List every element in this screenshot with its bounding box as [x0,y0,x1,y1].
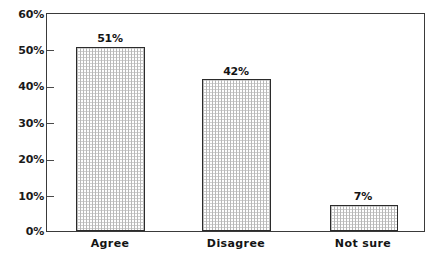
bar-disagree[interactable] [202,79,271,231]
y-axis-tick-50 [47,50,54,51]
category-label-not-sure: Not sure [335,238,391,250]
category-label-disagree: Disagree [207,238,265,250]
y-tick-label-0: 0% [2,226,44,237]
value-label-disagree: 42% [223,66,249,77]
y-axis-tick-40 [47,87,54,88]
value-label-agree: 51% [97,33,123,44]
y-axis-tick-20 [47,160,54,161]
y-tick-label-40: 40% [2,81,44,92]
y-axis-tick-30 [47,123,54,124]
category-label-agree: Agree [91,238,130,250]
y-axis-tick-10 [47,196,54,197]
bar-chart: 60% 50% 40% 30% 20% 10% 0% 51% 42% 7% Ag… [0,0,437,259]
y-axis-tick-labels: 60% 50% 40% 30% 20% 10% 0% [0,0,44,259]
y-tick-label-20: 20% [2,154,44,165]
y-tick-label-30: 30% [2,118,44,129]
y-tick-label-50: 50% [2,45,44,56]
bar-agree[interactable] [76,47,145,231]
value-label-not-sure: 7% [354,191,372,202]
y-tick-label-60: 60% [2,9,44,20]
y-tick-label-10: 10% [2,191,44,202]
bar-not-sure[interactable] [330,205,398,231]
